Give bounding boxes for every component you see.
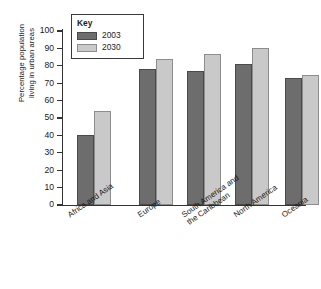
- bar-2003: [139, 69, 156, 205]
- legend-label-2003: 2003: [102, 31, 121, 40]
- y-tick-label-20: 20: [26, 166, 54, 175]
- bar-chart: Percentage population living in urban ar…: [0, 0, 321, 289]
- y-tick-label-0: 0: [26, 200, 54, 209]
- bar-group: [139, 31, 173, 205]
- legend-item-2030: 2030: [77, 42, 138, 53]
- bar-2030: [302, 75, 319, 206]
- y-tick-label-70: 70: [26, 79, 54, 88]
- bar-2003: [285, 78, 302, 205]
- y-tick-label-60: 60: [26, 96, 54, 105]
- legend-label-2030: 2030: [102, 43, 121, 52]
- bar-2003: [187, 71, 204, 205]
- y-tick-label-100: 100: [26, 26, 54, 35]
- legend-swatch-2030: [77, 44, 97, 52]
- bar-group: [235, 31, 269, 205]
- legend: Key 2003 2030: [71, 14, 144, 59]
- y-axis-title: Percentage population living in urban ar…: [12, 0, 42, 148]
- y-tick-label-90: 90: [26, 44, 54, 53]
- bar-2030: [156, 59, 173, 205]
- bar-2030: [252, 48, 269, 205]
- y-tick-label-80: 80: [26, 61, 54, 70]
- legend-title: Key: [77, 18, 138, 28]
- y-tick-label-40: 40: [26, 131, 54, 140]
- bar-group: [187, 31, 221, 205]
- y-tick-label-50: 50: [26, 113, 54, 122]
- bar-2030: [204, 54, 221, 205]
- legend-item-2003: 2003: [77, 30, 138, 41]
- legend-swatch-2003: [77, 32, 97, 40]
- y-tick-label-10: 10: [26, 183, 54, 192]
- y-tick-label-30: 30: [26, 148, 54, 157]
- bar-group: [285, 31, 319, 205]
